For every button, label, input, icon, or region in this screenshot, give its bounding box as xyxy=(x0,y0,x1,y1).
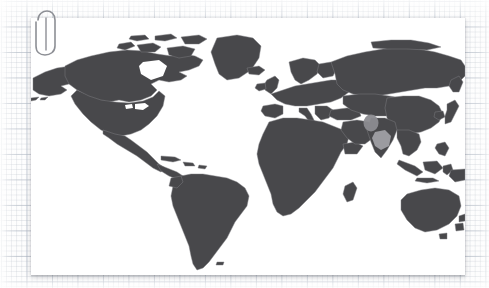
world-map-svg xyxy=(31,18,465,275)
world-map-image[interactable] xyxy=(31,18,465,275)
world-map-card[interactable] xyxy=(31,18,465,275)
print-haze xyxy=(31,18,465,275)
